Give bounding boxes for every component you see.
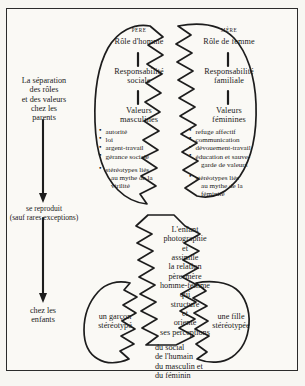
left-flow-step-3: chez les enfants <box>12 306 74 325</box>
child-line: la relation <box>151 262 219 271</box>
father-stereotype-line3: virilité <box>99 182 173 190</box>
child-domain: du féminin <box>155 371 233 380</box>
child-domains-block: du social de l'humain du masculin et du … <box>155 343 233 380</box>
mother-values-list: refuge affectif communication dévouement… <box>189 128 269 169</box>
mother-value-item: refuge affectif <box>189 128 269 136</box>
child-line: assimile <box>151 253 219 262</box>
child-line: qui <box>151 290 219 299</box>
mother-role: Rôle de femme <box>185 38 273 47</box>
father-stereotype-item: stéréotypes liés <box>99 166 173 174</box>
child-domain: du social <box>155 343 233 352</box>
girl-label: une fille stéréotypée <box>200 312 262 331</box>
child-line: structure <box>151 300 219 309</box>
father-responsibility: Responsabilité sociale <box>96 68 182 86</box>
mother-values-title: Valeurs féminines <box>185 106 273 124</box>
child-line: L'enfant <box>151 225 219 234</box>
father-caps-label: PÈRE <box>108 28 170 34</box>
left-flow-step-1: La séparation des rôles et des valeurs c… <box>3 76 85 123</box>
mother-stereotype-list: stéréotypes liés au mythe de la féminité <box>189 174 269 199</box>
child-line: et <box>151 244 219 253</box>
mother-value-item: éducation et sauve- <box>189 153 269 161</box>
child-line: photographie <box>151 234 219 243</box>
child-line: homme-femme <box>151 281 219 290</box>
father-role: Rôle d'homme <box>96 38 182 47</box>
father-stereotype-line2: au mythe de la <box>99 174 173 182</box>
child-line: père-mère <box>151 272 219 281</box>
father-values-list: autorité loi argent-travail gérance soci… <box>99 128 171 161</box>
father-value-item: gérance sociale <box>99 153 171 161</box>
mother-stereotype-item: stéréotypes liés <box>189 174 269 182</box>
mother-stereotype-line2: au mythe de la <box>189 182 269 190</box>
left-flow-step-2: se reproduit (sauf rares exceptions) <box>0 205 90 222</box>
child-domain: de l'humain <box>155 352 233 361</box>
boy-label: un garçon stéréotypé <box>84 312 146 331</box>
mother-responsibility: Responsabilité familiale <box>185 68 273 86</box>
mother-value-item: communication <box>189 136 269 144</box>
father-value-item: autorité <box>99 128 171 136</box>
mother-stereotype-line3: féminité <box>189 190 269 198</box>
mother-value-item: dévouement-travail <box>189 144 269 152</box>
father-value-item: argent-travail <box>99 144 171 152</box>
father-value-item: loi <box>99 136 171 144</box>
father-values-title: Valeurs masculines <box>96 106 182 124</box>
child-domain: du masculin et <box>155 362 233 371</box>
mother-caps-label: MÈRE <box>198 28 260 34</box>
mother-value-item-cont: garde de valeurs <box>189 161 269 169</box>
father-stereotype-list: stéréotypes liés au mythe de la virilité <box>99 166 173 191</box>
